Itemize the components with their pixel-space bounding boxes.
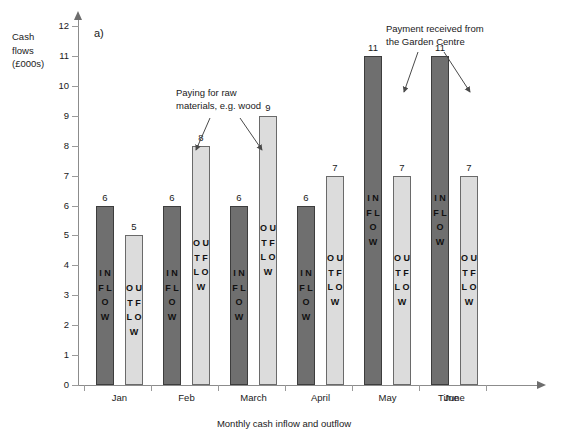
bar-label-outflow: O U T F L O W	[461, 251, 477, 309]
y-axis-tick-label: 1	[50, 349, 69, 360]
x-axis-tick	[352, 385, 353, 391]
x-axis-tick-label: April	[286, 392, 356, 403]
figure-caption: Monthly cash inflow and outflow	[0, 418, 568, 429]
bar-label-inflow: I N F L O W	[365, 191, 381, 249]
bar-label-outflow: O U T F L O W	[327, 251, 343, 309]
bar-value-may-outflow: 7	[393, 162, 411, 173]
y-axis-title-line-1: Cash	[12, 30, 92, 44]
bar-feb-inflow: I N F L O W	[163, 206, 181, 386]
bar-jan-inflow: I N F L O W	[96, 206, 114, 386]
y-axis-tick	[72, 325, 79, 326]
y-axis-tick	[72, 265, 79, 266]
bar-march-outflow: O U T F L O W	[259, 116, 277, 385]
y-axis-line	[78, 18, 79, 386]
y-axis-tick-label: 9	[50, 110, 69, 121]
y-axis-tick-label: 5	[50, 229, 69, 240]
bar-label-inflow: I N F L O W	[231, 266, 247, 324]
x-axis-title: Time	[438, 392, 459, 403]
bar-april-outflow: O U T F L O W	[326, 176, 344, 385]
x-axis-tick	[218, 385, 219, 391]
x-axis-tick	[151, 385, 152, 391]
bar-value-june-outflow: 7	[460, 162, 478, 173]
y-axis-tick	[72, 206, 79, 207]
y-axis-tick	[72, 146, 79, 147]
bar-value-jan-outflow: 5	[125, 221, 143, 232]
bar-label-inflow: I N F L O W	[432, 191, 448, 249]
bar-june-outflow: O U T F L O W	[460, 176, 478, 385]
annotation-payment-received-label: Payment received from the Garden Centre	[386, 22, 546, 48]
x-axis-tick-label: Jan	[85, 392, 155, 403]
bar-value-april-inflow: 6	[297, 192, 315, 203]
y-axis-arrow-icon	[74, 11, 82, 20]
y-axis-tick-label: 4	[50, 259, 69, 270]
bar-value-march-inflow: 6	[230, 192, 248, 203]
bar-feb-outflow: O U T F L O W	[192, 146, 210, 385]
bar-label-outflow: O U T F L O W	[126, 281, 142, 339]
bar-value-feb-inflow: 6	[163, 192, 181, 203]
bar-label-inflow: I N F L O W	[298, 266, 314, 324]
panel-label: a)	[94, 27, 104, 39]
y-axis-tick-label: 8	[50, 140, 69, 151]
bar-april-inflow: I N F L O W	[297, 206, 315, 386]
bar-label-outflow: O U T F L O W	[260, 221, 276, 279]
x-axis-tick	[285, 385, 286, 391]
x-axis-tick-label: March	[219, 392, 289, 403]
y-axis-tick-label: 3	[50, 289, 69, 300]
x-axis-tick-label: Feb	[152, 392, 222, 403]
y-axis-tick	[72, 295, 79, 296]
y-axis-tick	[72, 26, 79, 27]
bar-jan-outflow: O U T F L O W	[125, 235, 143, 385]
y-axis-tick-label: 10	[50, 80, 69, 91]
y-axis-tick-label: 0	[50, 379, 69, 390]
x-axis-arrow-icon	[537, 381, 546, 389]
bar-value-may-inflow: 11	[364, 42, 382, 53]
y-axis-tick	[72, 235, 79, 236]
y-axis-tick-label: 11	[50, 50, 69, 61]
bar-march-inflow: I N F L O W	[230, 206, 248, 386]
x-axis-tick	[486, 385, 487, 391]
arrow-to-may-inflow	[404, 52, 418, 92]
bar-may-inflow: I N F L O W	[364, 56, 382, 385]
x-axis-line	[78, 385, 538, 386]
y-axis-tick-label: 7	[50, 170, 69, 181]
x-axis-tick-label: May	[353, 392, 423, 403]
y-axis-tick	[72, 176, 79, 177]
bar-may-outflow: O U T F L O W	[393, 176, 411, 385]
annotation-raw-materials-label: Paying for raw materials, e.g. wood	[176, 86, 316, 112]
x-axis-tick	[419, 385, 420, 391]
y-axis-tick	[72, 385, 79, 386]
y-axis-tick-label: 2	[50, 319, 69, 330]
bar-value-feb-outflow: 8	[192, 132, 210, 143]
bar-value-jan-inflow: 6	[96, 192, 114, 203]
bar-june-inflow: I N F L O W	[431, 56, 449, 385]
y-axis-tick	[72, 86, 79, 87]
y-axis-tick	[72, 355, 79, 356]
y-axis-tick-label: 12	[50, 20, 69, 31]
x-axis-tick	[84, 385, 85, 391]
bar-label-inflow: I N F L O W	[164, 266, 180, 324]
bar-label-outflow: O U T F L O W	[193, 236, 209, 294]
bar-value-april-outflow: 7	[326, 162, 344, 173]
cash-flow-bar-chart: Cash flows (£000s) a) 0123456789101112 J…	[0, 0, 568, 447]
bar-label-outflow: O U T F L O W	[394, 251, 410, 309]
y-axis-tick	[72, 116, 79, 117]
y-axis-tick-label: 6	[50, 200, 69, 211]
bar-label-inflow: I N F L O W	[97, 266, 113, 324]
y-axis-tick	[72, 56, 79, 57]
